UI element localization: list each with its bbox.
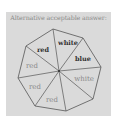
sector-label-2: white [57,39,78,47]
sector-label-3: blue [75,55,91,63]
sector-label-8: red [26,62,38,70]
sector-label-7: red [29,83,41,91]
center-point [58,70,60,72]
sector-label-6: red [46,96,58,104]
sector-label-1: red [37,46,50,54]
octagon-diagram: red white blue white red red red [0,0,117,123]
sector-label-4: white [74,75,94,83]
